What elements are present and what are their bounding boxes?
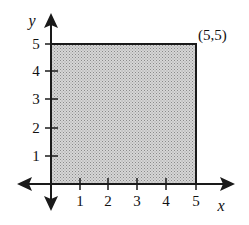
x-tick-label: 4 xyxy=(162,193,170,209)
shaded-region xyxy=(51,44,196,184)
x-axis-label: x xyxy=(216,197,224,214)
y-tick-label: 2 xyxy=(32,120,40,136)
coordinate-plane: 1 2 3 4 5 1 2 3 4 5 y x (5,5) xyxy=(0,0,249,225)
x-tick-label: 3 xyxy=(133,193,141,209)
y-tick-label: 4 xyxy=(32,63,40,79)
x-tick-label: 1 xyxy=(76,193,84,209)
x-tick-label: 2 xyxy=(104,193,112,209)
x-tick-label: 5 xyxy=(192,193,200,209)
y-axis-label: y xyxy=(26,12,36,30)
y-tick-label: 3 xyxy=(32,91,40,107)
y-tick-label: 5 xyxy=(32,36,40,52)
y-tick-label: 1 xyxy=(32,148,40,164)
corner-point-label: (5,5) xyxy=(198,27,227,44)
